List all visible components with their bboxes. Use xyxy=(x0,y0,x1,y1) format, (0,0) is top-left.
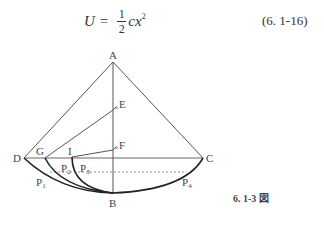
line-FI xyxy=(72,150,113,157)
label-P1: P1 xyxy=(36,176,46,190)
label-P4: P4 xyxy=(182,176,192,190)
label-C: C xyxy=(206,152,213,164)
label-P2: P2 xyxy=(61,162,71,176)
label-D: D xyxy=(13,152,21,164)
line-AC xyxy=(113,62,203,158)
line-EG xyxy=(45,110,113,158)
pendulum-figure: A E F D G I C B P1 P2 P3 P4 xyxy=(0,0,324,226)
label-G: G xyxy=(36,145,44,157)
label-E: E xyxy=(119,98,126,110)
label-I: I xyxy=(68,145,72,157)
line-AD xyxy=(24,62,113,158)
pivot-F-icon xyxy=(113,146,118,150)
label-B: B xyxy=(109,197,116,209)
pivot-E-icon xyxy=(113,106,118,110)
label-P3: P3 xyxy=(80,162,90,176)
label-A: A xyxy=(109,49,117,61)
label-F: F xyxy=(119,139,125,151)
figure-caption: 6. 1-3 図 xyxy=(233,190,269,205)
